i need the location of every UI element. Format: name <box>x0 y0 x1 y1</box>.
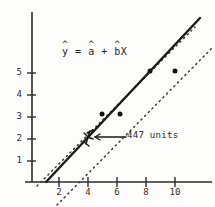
a-hat-symbol: ^a <box>88 46 95 57</box>
x-axis-tick-label-2: 2 <box>52 188 66 197</box>
interval-width-annotation: 447 units <box>127 130 178 140</box>
y-axis-tick-label-4: 4 <box>8 90 22 99</box>
y-axis-tick-label-5: 5 <box>8 68 22 77</box>
lower-confidence-band-line <box>57 46 214 205</box>
regression-line <box>46 18 200 182</box>
plus-sign: + <box>101 46 108 57</box>
x-axis-tick-label-4: 4 <box>81 188 95 197</box>
data-points <box>100 69 178 117</box>
x-axis-tick-label-8: 8 <box>139 188 153 197</box>
data-point <box>148 69 153 74</box>
data-point <box>173 69 178 74</box>
y-hat-symbol: ^y <box>62 46 69 57</box>
y-axis-tick-label-1: 1 <box>8 156 22 165</box>
annotation-leader <box>95 134 126 140</box>
x-symbol: X <box>121 46 128 57</box>
b-hat-caret: ^ <box>114 40 121 49</box>
data-point <box>118 112 123 117</box>
x-axis-tick-label-6: 6 <box>110 188 124 197</box>
y-axis-tick-label-2: 2 <box>8 134 22 143</box>
equals-sign: = <box>75 46 82 57</box>
y-axis-tick-label-3: 3 <box>8 112 22 121</box>
chart-canvas <box>0 0 215 207</box>
regression-chart-figure: 5 4 3 2 1 2 4 6 8 10 ^y = ^a + ^bX 447 u… <box>0 0 215 207</box>
y-hat-caret: ^ <box>62 40 69 49</box>
x-axis-tick-label-10: 10 <box>168 188 182 197</box>
b-hat-symbol: ^b <box>114 46 121 57</box>
regression-equation-label: ^y = ^a + ^bX <box>62 46 127 57</box>
a-hat-caret: ^ <box>88 40 95 49</box>
data-point <box>100 112 105 117</box>
